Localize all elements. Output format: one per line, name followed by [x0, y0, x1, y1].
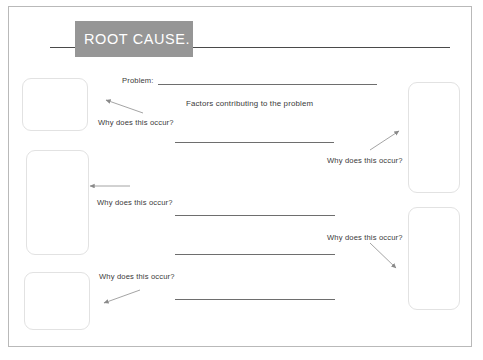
answer-line-3[interactable] [175, 254, 335, 255]
problem-label: Problem: [122, 76, 154, 85]
title-plate: ROOT CAUSE. [75, 21, 193, 57]
answer-line-2[interactable] [175, 215, 335, 216]
right-why-label-2: Why does this occur? [327, 233, 403, 242]
left-answer-box-2[interactable] [26, 150, 89, 255]
left-answer-box-3[interactable] [24, 272, 90, 330]
page-title: ROOT CAUSE. [75, 21, 193, 57]
answer-line-1[interactable] [175, 142, 334, 143]
factors-label: Factors contributing to the problem [186, 99, 313, 108]
right-answer-box-2[interactable] [408, 207, 460, 310]
left-answer-box-1[interactable] [22, 78, 88, 131]
right-answer-box-1[interactable] [408, 82, 460, 193]
problem-input-line[interactable] [158, 84, 377, 85]
right-why-label-1: Why does this occur? [327, 156, 403, 165]
left-why-label-3: Why does this occur? [99, 272, 175, 281]
left-why-label-2: Why does this occur? [97, 198, 173, 207]
answer-line-4[interactable] [175, 299, 335, 300]
root-cause-worksheet: ROOT CAUSE. Problem: Factors contributin… [0, 0, 483, 360]
left-why-label-1: Why does this occur? [98, 118, 174, 127]
